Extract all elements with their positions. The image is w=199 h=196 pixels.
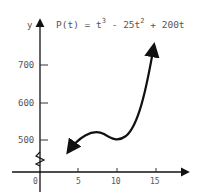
polynomial-chart: 700 600 500 0 5 10 15 y P(t) = t3 - 25t2… [0, 0, 199, 196]
y-label-600: 600 [18, 98, 34, 108]
x-label-15: 15 [150, 177, 160, 186]
x-label-10: 10 [111, 177, 121, 186]
chart-title: P(t) = t3 - 25t2 + 200t [56, 17, 185, 30]
y-label-700: 700 [18, 60, 34, 70]
y-label-500: 500 [18, 135, 34, 145]
x-label-5: 5 [76, 177, 81, 186]
y-axis-label: y [27, 20, 33, 30]
polynomial-curve [68, 45, 154, 152]
x-label-0: 0 [33, 177, 38, 186]
